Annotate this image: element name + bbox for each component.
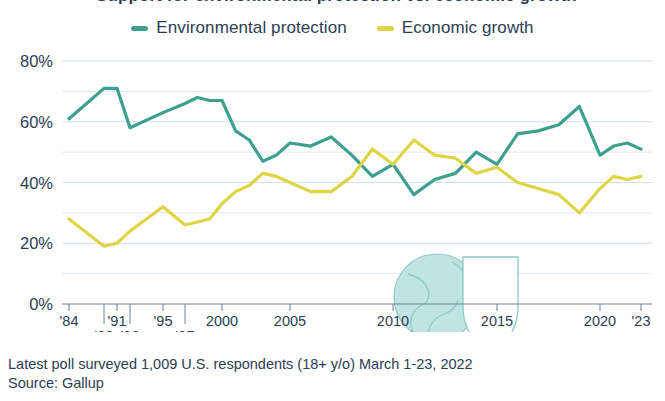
x-axis-tick-label: '23 (632, 313, 651, 329)
y-axis-tick-label: 80% (20, 52, 53, 70)
x-axis-tick-labels: '84'90'91'92'95'9720002005201020152020'2… (60, 313, 651, 332)
legend-item-environmental-protection[interactable]: Environmental protection (131, 18, 346, 38)
x-axis-tick-label: '92 (121, 328, 140, 332)
legend-label: Environmental protection (156, 18, 346, 38)
chart-footnote: Latest poll surveyed 1,009 U.S. responde… (8, 355, 658, 393)
series-line-economic-growth (69, 140, 641, 246)
x-axis-tick-label: 2005 (274, 313, 306, 329)
footnote-source: Source: Gallup (8, 374, 658, 393)
chart-plot-area: 0%20%40%60%80% '84'90'91'92'95'972000200… (0, 42, 665, 332)
x-axis-tick-label: 2000 (206, 313, 238, 329)
footnote-survey-details: Latest poll surveyed 1,009 U.S. responde… (8, 355, 658, 374)
x-axis-tick-label: '97 (176, 328, 195, 332)
chart-legend: Environmental protection Economic growth (0, 14, 665, 42)
x-axis-tick-label: '84 (60, 313, 79, 329)
y-axis-tick-label: 60% (20, 113, 53, 131)
legend-line-swatch-icon (377, 26, 394, 31)
legend-label: Economic growth (402, 18, 534, 38)
x-axis-tick-label: 2010 (377, 313, 409, 329)
y-axis-tick-label: 0% (29, 295, 53, 313)
legend-item-economic-growth[interactable]: Economic growth (377, 18, 534, 38)
x-axis-tick-label: 2015 (481, 313, 513, 329)
series-line-environmental-protection (69, 88, 641, 194)
x-axis-tick-label: 2020 (584, 313, 616, 329)
line-chart: 0%20%40%60%80% '84'90'91'92'95'972000200… (0, 42, 665, 332)
x-axis-tick-label: '91 (108, 313, 127, 329)
x-axis-tick-label: '95 (154, 313, 173, 329)
y-axis-tick-label: 20% (20, 234, 53, 252)
y-axis-tick-labels: 0%20%40%60%80% (20, 52, 53, 313)
page-title: Support for environmental protection vs.… (96, 0, 577, 6)
y-axis-tick-label: 40% (20, 174, 53, 192)
legend-line-swatch-icon (131, 26, 148, 31)
page-title-clipped: Support for environmental protection vs.… (0, 0, 665, 9)
